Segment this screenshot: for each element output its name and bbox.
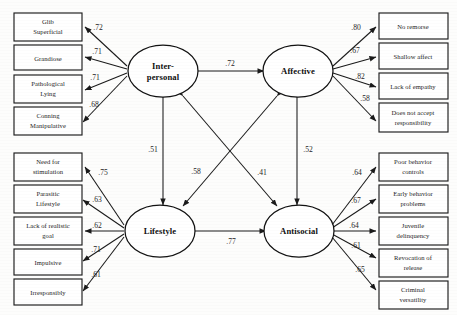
indicator-early-behavior-problems: Early behavior problems <box>379 185 448 213</box>
loading-value: .58 <box>360 94 370 103</box>
indicator-label: Criminal <box>401 286 425 293</box>
indicator-label: Lying <box>40 90 56 97</box>
correlation-value: .58 <box>191 167 201 176</box>
indicator-label: goal <box>42 232 54 239</box>
loading-value: .63 <box>92 195 102 204</box>
indicator-label: Early behavior <box>393 190 433 197</box>
loading-path <box>333 57 376 69</box>
factor-label: personal <box>147 72 180 82</box>
indicator-criminal-versatility: Criminal versatility <box>379 281 448 309</box>
coefficients-interpersonal: .72 .71 .71 .68 <box>89 23 103 109</box>
indicator-label: Conning <box>36 112 60 119</box>
loading-value: .71 <box>91 245 101 254</box>
indicator-shallow-affect: Shallow affect <box>379 43 448 69</box>
indicator-label: Grandiose <box>34 55 62 62</box>
indicator-lack-of-empathy: Lack of empathy <box>379 73 448 99</box>
indicator-impulsive: Impulsive <box>14 249 82 275</box>
indicator-conning-manipulative: Conning Manipulative <box>14 107 82 135</box>
loading-value: .72 <box>93 23 103 32</box>
correlation-value: .41 <box>257 168 267 177</box>
indicator-juvenile-delinquency: Juvenile delinquency <box>379 217 448 245</box>
factor-interpersonal: Inter- personal <box>128 45 198 97</box>
indicator-label: No remorse <box>397 23 428 30</box>
indicator-pathological-lying: Pathological Lying <box>14 75 82 103</box>
indicator-label: Irresponsibly <box>30 289 66 296</box>
indicator-label: controls <box>402 168 424 175</box>
indicator-does-not-accept-responsibility: Does not accept responsibility <box>379 103 448 132</box>
loading-value: .61 <box>351 241 361 250</box>
loading-path <box>83 200 124 228</box>
indicator-label: Glib <box>42 18 55 25</box>
indicator-label: Impulsive <box>35 259 62 266</box>
indicator-grandiose: Grandiose <box>14 45 82 70</box>
indicator-label: responsibility <box>395 119 432 126</box>
indicator-parasitic-lifestyle: Parasitic Lifestyle <box>14 185 82 213</box>
loading-path <box>85 57 127 69</box>
loading-value: .67 <box>350 46 360 55</box>
coefficients-lifestyle: .75 .63 .62 .71 .61 <box>91 168 108 279</box>
correlation-value: .52 <box>303 145 313 154</box>
indicator-label: Does not accept <box>392 109 435 116</box>
loading-value: .68 <box>89 100 99 109</box>
factor-antisocial: Antisocial <box>264 205 334 257</box>
factor-label: Lifestyle <box>144 226 176 236</box>
loading-paths-lifestyle <box>83 167 124 291</box>
factor-label: Antisocial <box>280 226 318 236</box>
indicator-label: Superficial <box>33 28 63 35</box>
indicator-label: Lack of empathy <box>390 83 436 90</box>
loading-value: .64 <box>352 168 362 177</box>
indicator-label: Pathological <box>31 80 65 87</box>
loading-value: .71 <box>90 73 100 82</box>
factor-label: Inter- <box>152 61 174 71</box>
loading-path <box>83 237 124 291</box>
indicator-label: release <box>404 264 423 271</box>
loading-value: .71 <box>92 47 102 56</box>
correlation-value: .77 <box>226 237 236 246</box>
sem-diagram: Glib Superficial Grandiose Pathological … <box>0 0 457 315</box>
indicator-glib-superficial: Glib Superficial <box>14 13 82 41</box>
indicator-label: Juvenile <box>402 222 424 229</box>
indicator-label: problems <box>401 200 426 207</box>
indicator-label: Shallow affect <box>394 53 433 60</box>
indicator-revocation-of-release: Revocation of release <box>379 249 448 277</box>
loading-value: .62 <box>92 221 102 230</box>
indicator-label: stimulation <box>33 168 64 175</box>
indicator-label: delinquency <box>397 232 430 239</box>
indicator-label: Manipulative <box>30 122 66 129</box>
correlation-value: .51 <box>148 145 158 154</box>
indicator-label: Lack of realistic <box>26 222 70 229</box>
indicator-irresponsibly: Irresponsibly <box>14 279 82 305</box>
indicator-label: Need for <box>36 158 60 165</box>
loading-value: .61 <box>91 270 101 279</box>
loading-value: .64 <box>349 221 359 230</box>
sem-canvas: Glib Superficial Grandiose Pathological … <box>0 0 457 315</box>
indicator-label: versatility <box>400 296 428 303</box>
factor-lifestyle: Lifestyle <box>125 205 195 257</box>
loading-value: .67 <box>351 196 361 205</box>
indicator-lack-of-realistic-goal: Lack of realistic goal <box>14 217 82 245</box>
loading-value: .82 <box>355 72 365 81</box>
indicator-label: Lifestyle <box>36 200 60 207</box>
loading-value: .75 <box>98 168 108 177</box>
indicator-label: Poor behavior <box>394 158 433 165</box>
loading-path <box>83 234 124 261</box>
factor-affective: Affective <box>263 45 333 97</box>
indicator-no-remorse: No remorse <box>379 13 448 39</box>
indicator-need-for-stimulation: Need for stimulation <box>14 153 82 181</box>
loading-value: .80 <box>351 23 361 32</box>
indicator-label: Parasitic <box>36 190 59 197</box>
correlation-paths <box>163 71 297 231</box>
loading-value: .65 <box>355 265 365 274</box>
indicator-poor-behavior-controls: Poor behavior controls <box>379 153 448 181</box>
correlation-value: .72 <box>225 59 235 68</box>
indicator-label: Revocation of <box>394 254 433 261</box>
loading-path <box>83 76 127 122</box>
factor-label: Affective <box>281 66 315 76</box>
